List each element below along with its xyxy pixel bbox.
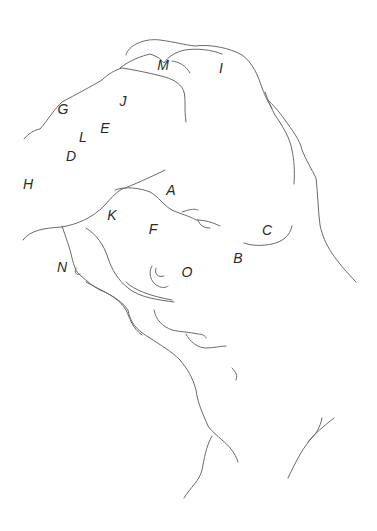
label-g: G xyxy=(58,102,69,116)
label-c: C xyxy=(262,223,272,237)
label-f: F xyxy=(149,222,158,236)
top-outer-arc xyxy=(126,40,272,108)
label-b: B xyxy=(233,251,242,265)
right-outer-contour xyxy=(268,100,356,282)
rib-curve-1 xyxy=(154,310,206,338)
leg-branch xyxy=(184,436,212,498)
torso-side-line xyxy=(86,282,238,462)
label-d: D xyxy=(66,149,76,163)
label-h: H xyxy=(23,177,33,191)
label-k: K xyxy=(107,208,116,222)
label-l: L xyxy=(79,130,87,144)
shoulder-boundary xyxy=(23,170,165,240)
label-o: O xyxy=(182,265,193,279)
label-i: I xyxy=(219,61,223,75)
label-j: J xyxy=(120,94,127,108)
n-loop xyxy=(75,268,80,275)
label-n: N xyxy=(57,260,67,274)
nipple-swirl-inner xyxy=(155,268,164,277)
right-inner-contour xyxy=(265,92,294,184)
right-leg-line xyxy=(288,418,322,478)
a-branch xyxy=(182,209,198,212)
label-m: M xyxy=(157,58,169,72)
navel-tick xyxy=(232,368,237,380)
label-e: E xyxy=(100,121,109,135)
k-inner-curve xyxy=(86,228,174,302)
arc-right-of-m xyxy=(172,61,190,73)
label-a: A xyxy=(166,183,175,197)
head-top-contour xyxy=(120,49,222,68)
rib-curve-2 xyxy=(186,334,226,348)
